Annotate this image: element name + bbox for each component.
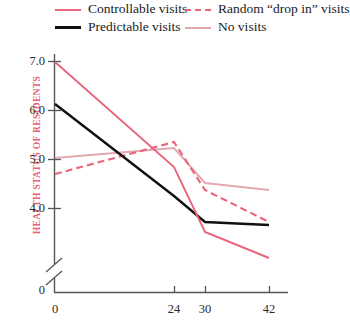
series-line-no-visits (55, 148, 269, 190)
series-line-controllable-visits (55, 62, 269, 258)
series-line-random-drop-in-visits (55, 142, 269, 222)
